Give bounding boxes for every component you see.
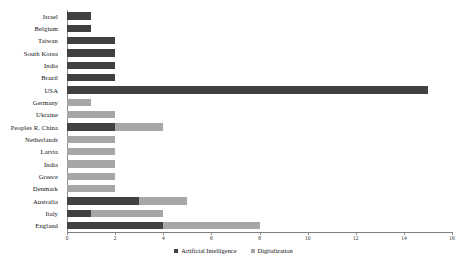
bar-segment-artificial-intelligence bbox=[67, 62, 115, 69]
category-label: Ukraine bbox=[0, 109, 62, 121]
legend-swatch-icon bbox=[174, 249, 178, 253]
category-label: England bbox=[0, 220, 62, 232]
bar-row bbox=[67, 158, 452, 170]
bar-row bbox=[67, 146, 452, 158]
bar-row bbox=[67, 35, 452, 47]
bar-segment-digitalization bbox=[67, 185, 115, 192]
bar-stack bbox=[67, 12, 91, 19]
value-axis-tick-label: 10 bbox=[305, 235, 310, 241]
category-label: Australia bbox=[0, 195, 62, 207]
bar-row bbox=[67, 170, 452, 182]
category-label: Israel bbox=[0, 10, 62, 22]
bar-segment-digitalization bbox=[67, 99, 91, 106]
bar-stack bbox=[67, 74, 115, 81]
value-axis-tick-label: 16 bbox=[449, 235, 454, 241]
bar-segment-digitalization bbox=[67, 160, 115, 167]
chart-legend: Artificial IntelligenceDigitalization bbox=[0, 247, 467, 254]
bar-segment-artificial-intelligence bbox=[67, 25, 91, 32]
bar-segment-digitalization bbox=[139, 197, 187, 204]
category-label: Netherlands bbox=[0, 133, 62, 145]
bar-segment-artificial-intelligence bbox=[67, 49, 115, 56]
bar-stack bbox=[67, 37, 115, 44]
bar-segment-artificial-intelligence bbox=[67, 86, 428, 93]
bar-row bbox=[67, 22, 452, 34]
legend-item: Artificial Intelligence bbox=[174, 247, 236, 254]
value-axis-tick-label: 4 bbox=[162, 235, 165, 241]
bar-stack bbox=[67, 86, 428, 93]
value-axis-ticks: 0246810121416 bbox=[67, 233, 453, 245]
bar-stack bbox=[67, 185, 115, 192]
bar-stack bbox=[67, 160, 115, 167]
category-label: Brazil bbox=[0, 72, 62, 84]
category-label: Taiwan bbox=[0, 35, 62, 47]
bar-stack bbox=[67, 62, 115, 69]
legend-label: Digitalization bbox=[258, 247, 293, 254]
bar-stack bbox=[67, 136, 115, 143]
value-axis-tick-label: 6 bbox=[210, 235, 213, 241]
bar-row bbox=[67, 59, 452, 71]
bar-row bbox=[67, 207, 452, 219]
bar-stack bbox=[67, 148, 115, 155]
bar-segment-artificial-intelligence bbox=[67, 197, 139, 204]
bar-stack bbox=[67, 197, 187, 204]
bar-row bbox=[67, 121, 452, 133]
bar-stack bbox=[67, 173, 115, 180]
bar-stack bbox=[67, 123, 163, 130]
category-label: USA bbox=[0, 84, 62, 96]
bar-row bbox=[67, 72, 452, 84]
bar-row bbox=[67, 10, 452, 22]
bar-stack bbox=[67, 210, 163, 217]
category-label: South Korea bbox=[0, 47, 62, 59]
bar-row bbox=[67, 195, 452, 207]
category-label: Italy bbox=[0, 207, 62, 219]
bar-stack bbox=[67, 222, 260, 229]
bar-segment-artificial-intelligence bbox=[67, 123, 115, 130]
category-label: India bbox=[0, 59, 62, 71]
category-label: Peoples R. China bbox=[0, 121, 62, 133]
bar-row bbox=[67, 133, 452, 145]
category-label: Denmark bbox=[0, 183, 62, 195]
bar-segment-digitalization bbox=[67, 111, 115, 118]
bar-segment-digitalization bbox=[67, 173, 115, 180]
legend-swatch-icon bbox=[251, 249, 255, 253]
bar-stack bbox=[67, 111, 115, 118]
bar-chart: IsraelBelgiumTaiwanSouth KoreaIndiaBrazi… bbox=[0, 0, 467, 266]
bar-stack bbox=[67, 25, 91, 32]
bar-stack bbox=[67, 99, 91, 106]
bar-row bbox=[67, 96, 452, 108]
bar-segment-digitalization bbox=[67, 148, 115, 155]
value-axis-tick-label: 0 bbox=[66, 235, 69, 241]
value-axis-tick-label: 2 bbox=[114, 235, 117, 241]
legend-label: Artificial Intelligence bbox=[181, 247, 236, 254]
bar-stack bbox=[67, 49, 115, 56]
value-axis-tick-label: 14 bbox=[401, 235, 406, 241]
bar-row bbox=[67, 109, 452, 121]
bar-segment-digitalization bbox=[91, 210, 163, 217]
category-label: Belgium bbox=[0, 22, 62, 34]
bar-segment-artificial-intelligence bbox=[67, 222, 163, 229]
bar-segment-digitalization bbox=[115, 123, 163, 130]
value-axis-tick-label: 8 bbox=[258, 235, 261, 241]
category-label: Germany bbox=[0, 96, 62, 108]
bar-segment-artificial-intelligence bbox=[67, 74, 115, 81]
bar-segment-digitalization bbox=[163, 222, 259, 229]
value-axis-tick-label: 12 bbox=[353, 235, 358, 241]
legend-item: Digitalization bbox=[251, 247, 293, 254]
bar-segment-artificial-intelligence bbox=[67, 210, 91, 217]
bar-segment-artificial-intelligence bbox=[67, 37, 115, 44]
bar-row bbox=[67, 183, 452, 195]
category-label: Latvia bbox=[0, 146, 62, 158]
bar-row bbox=[67, 220, 452, 232]
bar-segment-digitalization bbox=[67, 136, 115, 143]
category-label: Greece bbox=[0, 170, 62, 182]
bar-row bbox=[67, 47, 452, 59]
category-axis-labels: IsraelBelgiumTaiwanSouth KoreaIndiaBrazi… bbox=[0, 10, 62, 232]
category-label: India bbox=[0, 158, 62, 170]
bar-row bbox=[67, 84, 452, 96]
bar-segment-artificial-intelligence bbox=[67, 12, 91, 19]
plot-area bbox=[67, 10, 452, 232]
